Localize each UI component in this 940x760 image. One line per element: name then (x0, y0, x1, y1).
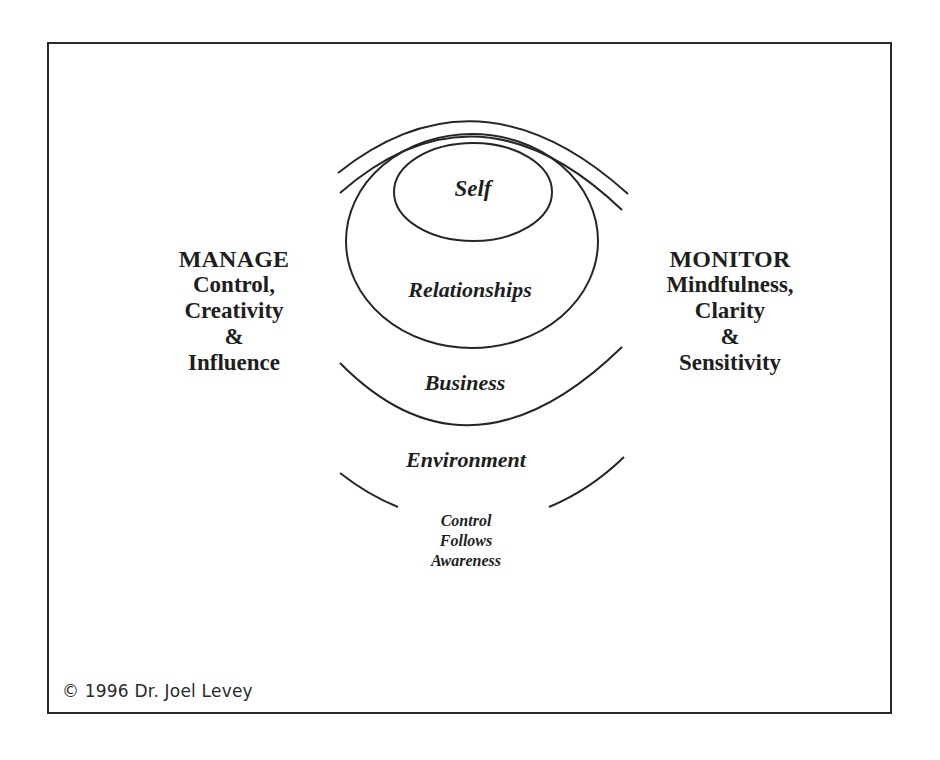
environment-arc-right (549, 457, 624, 507)
motto-line-3: Awareness (431, 551, 501, 571)
motto-line-1: Control (431, 511, 501, 531)
motto-line-2: Follows (431, 531, 501, 551)
ring-label-environment: Environment (406, 447, 526, 473)
copyright-notice: © 1996 Dr. Joel Levey (62, 681, 253, 701)
environment-arc-left (340, 473, 398, 507)
manage-line-3: & (179, 324, 290, 350)
manage-panel: MANAGE Control, Creativity & Influence (179, 246, 290, 376)
monitor-line-4: Sensitivity (666, 350, 793, 376)
manage-heading: MANAGE (179, 246, 290, 272)
monitor-panel: MONITOR Mindfulness, Clarity & Sensitivi… (666, 246, 793, 376)
monitor-heading: MONITOR (666, 246, 793, 272)
motto-text: Control Follows Awareness (431, 511, 501, 571)
ring-label-business: Business (425, 370, 506, 396)
manage-line-4: Influence (179, 350, 290, 376)
ring-label-self: Self (454, 176, 491, 202)
manage-line-2: Creativity (179, 298, 290, 324)
ring-label-relationships: Relationships (408, 277, 531, 303)
monitor-line-2: Clarity (666, 298, 793, 324)
manage-line-1: Control, (179, 272, 290, 298)
monitor-line-1: Mindfulness, (666, 272, 793, 298)
monitor-line-3: & (666, 324, 793, 350)
